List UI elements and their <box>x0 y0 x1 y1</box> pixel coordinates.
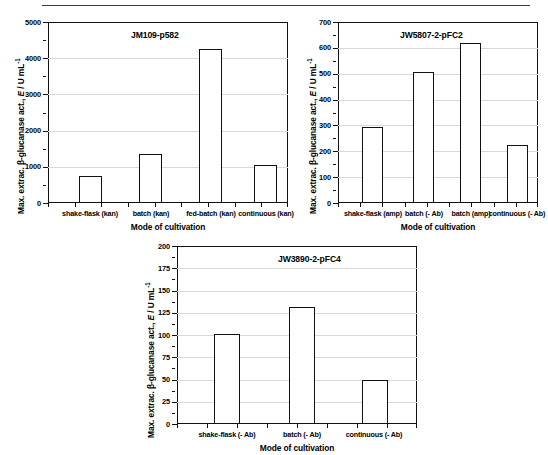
chart3-title: JW3890-2-pFC4 <box>278 254 341 264</box>
x-tick <box>338 203 339 207</box>
y-axis-chart3 <box>172 246 177 424</box>
y-tick <box>333 22 338 23</box>
x-category-labels-chart2: shake-flask (amp) batch (- Ab) batch (am… <box>338 210 538 222</box>
x-tick <box>48 203 49 207</box>
x-tick <box>208 203 209 207</box>
x-tick <box>416 424 417 428</box>
y-tick-minor <box>43 113 46 114</box>
y-tick <box>333 74 338 75</box>
y-tick <box>43 22 48 23</box>
chart-panel-jw5807: Max. extrac. β-glucanase act., E / U mL-… <box>296 14 548 230</box>
y-tick-minor <box>43 185 46 186</box>
gridline <box>48 167 288 168</box>
gridline <box>48 131 288 132</box>
chart1-title: JM109-p582 <box>131 30 179 40</box>
y-tick <box>43 131 48 132</box>
y-tick <box>172 268 177 269</box>
y-tick-label: 150 <box>158 287 170 294</box>
y-tick-label: 400 <box>319 96 331 103</box>
bar-fed-batch-kan <box>199 49 222 203</box>
gridline <box>338 48 538 49</box>
chart2-title: JW5807-2-pFC2 <box>400 30 463 40</box>
y-tick <box>43 58 48 59</box>
x-tick <box>537 203 538 207</box>
header-rule <box>42 5 530 6</box>
x-tick <box>267 424 268 428</box>
x-category-labels-chart3: shake-flask (- Ab) batch (- Ab) continuo… <box>177 431 417 443</box>
y-tick-minor <box>172 257 175 258</box>
gridline <box>338 74 538 75</box>
y-tick <box>333 177 338 178</box>
y-tick-minor <box>333 35 336 36</box>
x-tick <box>181 203 182 207</box>
y-tick-minor <box>172 324 175 325</box>
bar-shake-flask-no-ab <box>214 334 240 424</box>
x-tick <box>360 203 361 207</box>
y-tick <box>172 335 177 336</box>
gridline <box>338 100 538 101</box>
x-tick <box>405 203 406 207</box>
x-axis-chart1 <box>48 203 288 207</box>
x-axis-chart2 <box>338 203 538 207</box>
bar-batch-no-ab <box>413 72 434 203</box>
chart-panel-jw3890: Max. extrac. β-glucanase act., E / U mL-… <box>132 238 422 455</box>
gridline <box>48 94 288 95</box>
x-tick <box>382 203 383 207</box>
y-tick <box>333 125 338 126</box>
plot-area-chart1: JM109-p582 <box>48 22 288 203</box>
y-tick-minor <box>333 61 336 62</box>
gridline <box>177 291 417 292</box>
x-tick <box>516 203 517 207</box>
bar-continuous-kan <box>254 165 277 203</box>
bar-batch-amp <box>460 43 481 203</box>
y-axis-chart2 <box>333 22 338 203</box>
y-tick <box>172 402 177 403</box>
x-category-label: continuous (- Ab) <box>329 431 419 438</box>
y-tick-label: 5000 <box>25 19 41 26</box>
y-tick-label: 2000 <box>25 127 41 134</box>
x-tick <box>237 424 238 428</box>
y-tick-label: 125 <box>158 309 170 316</box>
y-tick-label: 200 <box>319 148 331 155</box>
y-tick-label: 25 <box>162 398 170 405</box>
x-tick <box>387 424 388 428</box>
y-tick-label: 100 <box>319 174 331 181</box>
y-tick <box>333 151 338 152</box>
x-tick <box>287 203 288 207</box>
y-tick-minor <box>333 113 336 114</box>
y-tick-minor <box>43 76 46 77</box>
x-tick <box>297 424 298 428</box>
x-category-labels-chart1: shake-flask (kan) batch (kan) fed-batch … <box>48 210 288 222</box>
x-axis-title-chart1: Mode of cultivation <box>48 222 288 232</box>
x-tick <box>327 424 328 428</box>
y-tick-label: 4000 <box>25 55 41 62</box>
x-tick <box>449 203 450 207</box>
bar-continuous-no-ab <box>362 380 388 424</box>
y-tick-label: 300 <box>319 122 331 129</box>
x-axis-title-chart3: Mode of cultivation <box>177 443 417 453</box>
y-tick <box>43 167 48 168</box>
y-tick <box>172 357 177 358</box>
y-tick-minor <box>43 149 46 150</box>
y-tick-minor <box>172 346 175 347</box>
x-tick <box>427 203 428 207</box>
y-tick <box>43 94 48 95</box>
bar-shake-flask-amp <box>362 127 383 203</box>
y-tick-label: 600 <box>319 44 331 51</box>
x-tick <box>235 203 236 207</box>
x-tick <box>155 203 156 207</box>
x-axis-title-chart2: Mode of cultivation <box>338 222 538 232</box>
y-tick <box>172 291 177 292</box>
x-tick <box>75 203 76 207</box>
plot-area-chart2: JW5807-2-pFC2 <box>338 22 538 203</box>
y-tick-label: 0 <box>37 200 41 207</box>
y-tick-minor <box>172 413 175 414</box>
chart-panel-jm109: Max. extrac. β-glucanase act., E / U mL-… <box>0 14 300 230</box>
x-tick <box>494 203 495 207</box>
y-tick-label: 100 <box>158 332 170 339</box>
y-tick-minor <box>333 138 336 139</box>
x-tick <box>357 424 358 428</box>
x-tick <box>128 203 129 207</box>
y-tick-label: 75 <box>162 354 170 361</box>
y-tick-label: 3000 <box>25 91 41 98</box>
